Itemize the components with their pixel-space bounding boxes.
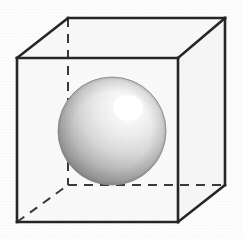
sphere-specular-highlight <box>113 95 143 121</box>
figure-container: Sphere inscribed in a cube Line drawing … <box>0 0 243 239</box>
sphere-in-cube-diagram <box>0 0 243 239</box>
